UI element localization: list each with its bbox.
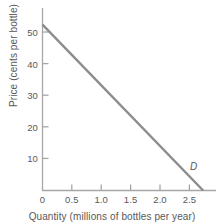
x-tick-label-1-0: 1.0 <box>94 194 108 205</box>
y-axis-title: Price (cents per bottle) <box>8 0 19 121</box>
x-tick-label-2-5: 2.5 <box>183 194 197 205</box>
x-tick-label-2-0: 2.0 <box>153 194 167 205</box>
demand-curve-figure: 50 40 30 20 10 0 0.5 1.0 1.5 2.0 2.5 D P… <box>0 0 224 224</box>
demand-curve-label: D <box>190 161 197 172</box>
y-tick-label-20: 20 <box>14 121 38 132</box>
x-axis-title: Quantity (millions of bottles per year) <box>29 211 196 222</box>
x-axis-ticks <box>72 185 190 191</box>
y-tick-label-10: 10 <box>14 153 38 164</box>
demand-curve-line <box>43 25 204 191</box>
x-tick-label-0-5: 0.5 <box>65 194 79 205</box>
x-tick-label-0: 0 <box>40 194 45 205</box>
y-axis-ticks <box>43 32 49 158</box>
x-tick-label-1-5: 1.5 <box>124 194 138 205</box>
